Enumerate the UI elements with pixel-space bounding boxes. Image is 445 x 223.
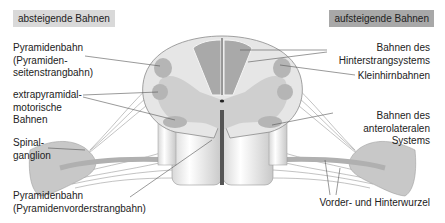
label-pyramidenbahn-seitenstrang: Pyramidenbahn (Pyramiden- seitenstrangba…	[13, 42, 93, 80]
label-spinalganglion: Spinal- ganglion	[13, 137, 51, 162]
label-kleinhirnbahnen: Kleinhirnbahnen	[358, 70, 430, 83]
lateral-tract-left-1	[154, 58, 172, 78]
header-descending-tracts: absteigende Bahnen	[13, 10, 115, 27]
header-ascending-tracts: aufsteigende Bahnen	[329, 10, 434, 27]
lateral-tract-right-1	[273, 58, 291, 78]
label-pyramidenbahn-vorderstrang: Pyramidenbahn (Pyramidenvorderstrangbahn…	[13, 190, 146, 215]
label-vorder-hinterwurzel: Vorder- und Hinterwurzel	[319, 197, 430, 210]
label-anterolateral: Bahnen des anterolateralen Systems	[363, 110, 430, 148]
lateral-tract-right-2	[277, 84, 293, 100]
central-canal	[220, 99, 224, 102]
label-extrapyramidal: extrapyramidal- motorische Bahnen	[13, 89, 82, 127]
ventral-tract-right	[258, 116, 282, 128]
label-hinterstrang: Bahnen des Hinterstrangsystems	[339, 42, 430, 67]
anterior-fissure	[220, 110, 224, 185]
